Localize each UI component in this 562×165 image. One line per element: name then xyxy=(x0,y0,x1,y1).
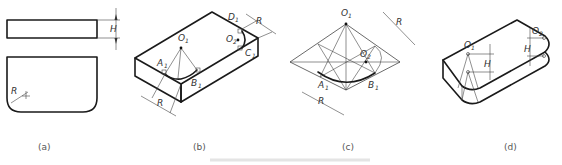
svg-text:A: A xyxy=(317,80,324,90)
svg-text:R: R xyxy=(318,96,324,106)
svg-text:R: R xyxy=(396,17,402,27)
svg-text:H: H xyxy=(524,44,531,54)
svg-text:R: R xyxy=(256,16,262,26)
svg-text:1: 1 xyxy=(325,84,329,91)
svg-text:1: 1 xyxy=(164,62,168,69)
svg-text:2: 2 xyxy=(233,38,237,45)
svg-text:B: B xyxy=(191,78,197,88)
svg-text:1: 1 xyxy=(471,44,475,51)
svg-text:2: 2 xyxy=(367,53,371,60)
panel-b: O 1 A 1 B 1 R R D 1 O 2 C 1 (b) xyxy=(135,12,276,152)
svg-text:C: C xyxy=(245,48,252,58)
caption-c: (c) xyxy=(342,142,354,152)
svg-text:1: 1 xyxy=(252,52,256,59)
caption-d: (d) xyxy=(504,142,517,152)
svg-text:H: H xyxy=(484,59,491,69)
svg-text:D: D xyxy=(228,12,235,22)
svg-text:1: 1 xyxy=(375,84,379,91)
panel-d: H O 1 H O 2 (d) xyxy=(443,20,549,152)
caption-b: (b) xyxy=(193,142,206,152)
svg-text:A: A xyxy=(156,58,163,68)
svg-text:1: 1 xyxy=(235,16,239,23)
svg-text:1: 1 xyxy=(348,12,352,19)
panel-c: O 1 O 2 A 1 B 1 R R (c) xyxy=(290,8,415,152)
height-label-a: H xyxy=(110,24,117,34)
svg-text:R: R xyxy=(157,98,163,108)
svg-text:1: 1 xyxy=(185,37,189,44)
isometric-rounded-corner-diagram: H R (a) O 1 A 1 B 1 R R xyxy=(0,0,562,165)
panel-a: H R (a) xyxy=(7,8,120,152)
radius-label-a: R xyxy=(11,86,17,96)
svg-text:B: B xyxy=(368,80,374,90)
svg-text:1: 1 xyxy=(198,82,202,89)
svg-text:2: 2 xyxy=(539,30,543,37)
caption-a: (a) xyxy=(38,142,51,152)
